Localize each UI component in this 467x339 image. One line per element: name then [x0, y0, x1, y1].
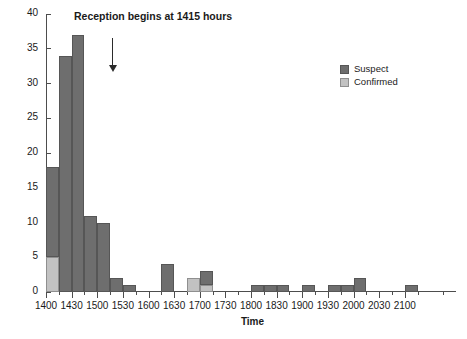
histogram-bar: [123, 285, 136, 292]
histogram-bar: [277, 285, 290, 292]
histogram-bar: [405, 285, 418, 292]
x-tick-mark: [289, 292, 290, 295]
y-tick-label: 15: [27, 181, 38, 192]
x-axis-title: Time: [0, 316, 467, 327]
bar-segment-suspect: [84, 216, 97, 292]
x-tick-mark: [328, 292, 329, 298]
histogram-bar: [187, 278, 200, 292]
x-tick-mark: [123, 292, 124, 298]
chart-legend: SuspectConfirmed: [340, 64, 398, 90]
x-tick-mark: [405, 292, 406, 298]
bar-segment-suspect: [97, 223, 110, 293]
histogram-bar: [110, 278, 123, 292]
x-tick-label: 2000: [342, 300, 364, 311]
x-tick-mark: [354, 292, 355, 298]
bar-segment-suspect: [123, 285, 136, 292]
x-tick-mark: [418, 292, 419, 295]
x-tick-mark: [161, 292, 162, 295]
y-tick-label: 40: [27, 7, 38, 18]
x-tick-mark: [315, 292, 316, 295]
legend-label: Suspect: [354, 64, 388, 74]
bar-segment-confirmed: [187, 278, 200, 292]
bar-segment-suspect: [59, 56, 72, 292]
x-tick-label: 1900: [291, 300, 313, 311]
bar-segment-suspect: [251, 285, 264, 292]
bar-segment-suspect: [264, 285, 277, 292]
histogram-bar: [251, 285, 264, 292]
bar-segment-suspect: [277, 285, 290, 292]
legend-swatch: [340, 65, 349, 74]
x-tick-label: 2100: [394, 300, 416, 311]
x-tick-mark: [443, 292, 444, 295]
x-tick-label: 1430: [61, 300, 83, 311]
bar-segment-suspect: [341, 285, 354, 292]
x-tick-mark: [149, 292, 150, 298]
histogram-bar: [328, 285, 341, 292]
x-tick-mark: [59, 292, 60, 295]
legend-item: Confirmed: [340, 77, 398, 87]
x-tick-mark: [97, 292, 98, 298]
bar-segment-confirmed: [200, 285, 213, 292]
bar-segment-suspect: [161, 264, 174, 292]
y-tick-label: 20: [27, 146, 38, 157]
histogram-bar: [264, 285, 277, 292]
x-tick-mark: [302, 292, 303, 298]
y-tick-label: 25: [27, 111, 38, 122]
y-tick-mark: [46, 83, 51, 84]
y-tick-mark: [46, 48, 51, 49]
x-tick-label: 1630: [163, 300, 185, 311]
x-tick-label: 1930: [317, 300, 339, 311]
x-tick-mark: [379, 292, 380, 298]
x-tick-label: 1500: [86, 300, 108, 311]
x-tick-mark: [238, 292, 239, 295]
y-tick-mark: [46, 14, 51, 15]
histogram-bar: [302, 285, 315, 292]
histogram-bar: [354, 278, 367, 292]
x-tick-mark: [225, 292, 226, 298]
x-tick-mark: [72, 292, 73, 298]
y-tick-label: 0: [32, 285, 38, 296]
legend-item: Suspect: [340, 64, 398, 74]
x-tick-label: 1600: [137, 300, 159, 311]
x-tick-label: 1700: [189, 300, 211, 311]
x-tick-label: 1830: [266, 300, 288, 311]
plot-area: 0510152025303540 14001430150015301600163…: [46, 14, 456, 292]
x-tick-label: 2030: [368, 300, 390, 311]
bar-segment-suspect: [302, 285, 315, 292]
histogram-bar: [59, 56, 72, 292]
histogram-bar: [341, 285, 354, 292]
y-tick-mark: [46, 153, 51, 154]
histogram-chart: Number of Cases 0510152025303540 1400143…: [0, 0, 467, 339]
x-tick-mark: [366, 292, 367, 295]
reception-annotation-label: Reception begins at 1415 hours: [74, 10, 232, 22]
bar-segment-suspect: [328, 285, 341, 292]
x-tick-mark: [136, 292, 137, 295]
bar-segment-suspect: [200, 271, 213, 285]
x-tick-mark: [110, 292, 111, 295]
x-tick-mark: [200, 292, 201, 298]
bar-segment-suspect: [110, 278, 123, 292]
x-tick-mark: [84, 292, 85, 295]
x-tick-label: 1730: [214, 300, 236, 311]
bar-segment-confirmed: [46, 257, 59, 292]
histogram-bar: [200, 271, 213, 292]
reception-arrow-icon: [112, 38, 113, 66]
x-tick-mark: [251, 292, 252, 298]
x-tick-mark: [187, 292, 188, 295]
bar-segment-suspect: [354, 278, 367, 292]
y-tick-label: 30: [27, 77, 38, 88]
bar-segment-suspect: [405, 285, 418, 292]
x-tick-mark: [174, 292, 175, 298]
bar-segment-suspect: [46, 167, 59, 257]
x-tick-mark: [264, 292, 265, 295]
legend-swatch: [340, 78, 349, 87]
x-tick-mark: [392, 292, 393, 295]
x-tick-mark: [46, 292, 47, 298]
y-tick-label: 35: [27, 42, 38, 53]
x-tick-label: 1800: [240, 300, 262, 311]
histogram-bar: [46, 167, 59, 292]
x-tick-mark: [277, 292, 278, 298]
histogram-bar: [72, 35, 85, 292]
x-tick-label: 1400: [35, 300, 57, 311]
x-tick-label: 1530: [112, 300, 134, 311]
